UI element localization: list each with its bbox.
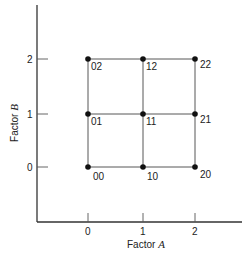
point-label-01: 01: [91, 116, 103, 127]
y-tick-label-2: 2: [27, 54, 33, 65]
point-10: [140, 164, 146, 170]
point-12: [140, 56, 146, 62]
point-label-20: 20: [200, 169, 212, 180]
point-11: [140, 111, 146, 117]
point-21: [192, 111, 198, 117]
point-label-12: 12: [146, 61, 158, 72]
y-axis-ticks: [37, 59, 48, 167]
point-label-11: 11: [146, 116, 157, 127]
y-axis-title: Factor B: [8, 104, 20, 142]
x-axis-ticks: [88, 213, 195, 222]
x-tick-label-1: 1: [140, 226, 146, 237]
point-label-00: 00: [93, 171, 105, 182]
point-label-02: 02: [91, 61, 103, 72]
x-tick-label-2: 2: [192, 226, 198, 237]
point-label-22: 22: [200, 59, 212, 70]
point-02: [85, 56, 91, 62]
point-label-10: 10: [147, 171, 159, 182]
point-01: [85, 111, 91, 117]
point-label-21: 21: [200, 114, 212, 125]
x-axis-title: Factor A: [127, 238, 165, 250]
point-22: [192, 56, 198, 62]
design-points: [85, 56, 198, 170]
point-20: [192, 164, 198, 170]
x-tick-label-0: 0: [85, 226, 91, 237]
factorial-design-diagram: 2 1 0 0 1 2 Factor A Factor B 00 10: [0, 0, 250, 257]
point-00: [85, 164, 91, 170]
y-tick-label-1: 1: [27, 109, 33, 120]
y-tick-label-0: 0: [27, 162, 33, 173]
